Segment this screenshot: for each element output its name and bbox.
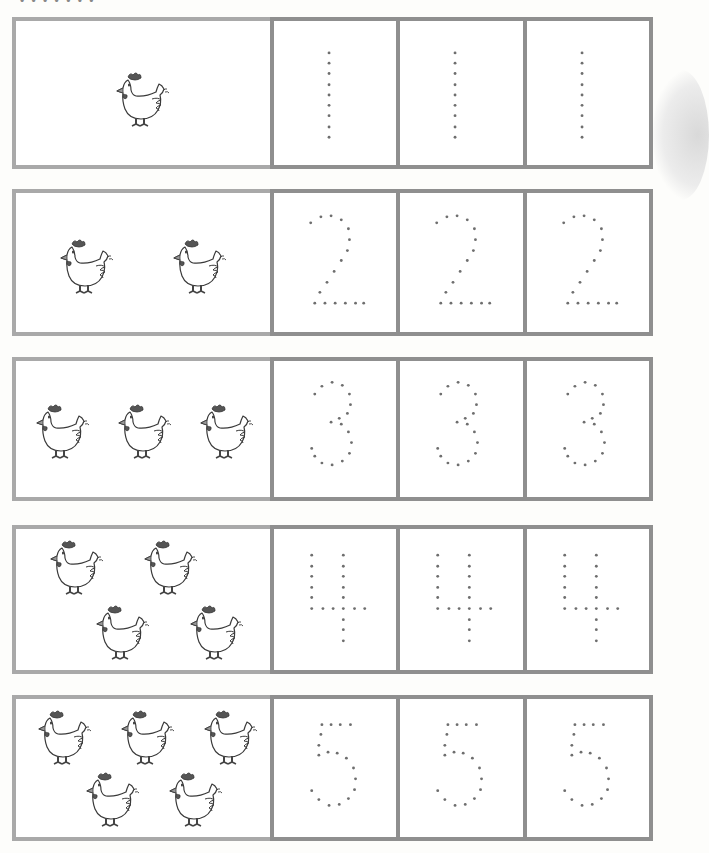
tracing-cells [270,357,653,501]
chicken-icon [171,238,231,296]
chicken-icon [116,403,176,461]
counting-row-3 [12,357,653,501]
dotted-digit-4 [400,529,522,670]
chicken-icon [114,71,174,129]
counting-row-1 [12,17,653,169]
trace-digit-3-cell[interactable] [527,361,649,497]
chicken-icon [48,539,108,597]
trace-digit-3-cell[interactable] [400,361,526,497]
chicken-icon [198,403,258,461]
chicken-icon [142,539,202,597]
chicken-icon [188,604,248,662]
counting-row-5 [12,695,653,841]
dotted-digit-2 [274,193,396,332]
counting-row-2 [12,189,653,336]
chicken-icon [36,709,96,767]
chicken-icon [119,709,179,767]
chicken-icon [167,771,227,829]
chicken-icon [34,403,94,461]
chicken-icon [58,238,118,296]
chicken-picture-cell [12,17,270,169]
dotted-digit-5 [274,699,396,837]
chicken-icon [202,709,262,767]
dotted-digit-2 [400,193,522,332]
chicken-icon [119,709,179,767]
chicken-icon [84,771,144,829]
dotted-digit-3 [400,361,522,497]
chicken-icon [171,238,231,296]
trace-digit-1-cell[interactable] [400,21,526,165]
chicken-icon [202,709,262,767]
dotted-digit-4 [274,529,396,670]
chicken-picture-cell [12,357,270,501]
tracing-cells [270,189,653,336]
chicken-picture-cell [12,189,270,336]
trace-digit-1-cell[interactable] [527,21,649,165]
chicken-picture-cell [12,695,270,841]
dotted-digit-4 [527,529,649,670]
counting-row-4 [12,525,653,674]
trace-digit-2-cell[interactable] [527,193,649,332]
chicken-icon [36,709,96,767]
chicken-icon [34,403,94,461]
trace-digit-3-cell[interactable] [274,361,400,497]
dotted-digit-2 [527,193,649,332]
dotted-digit-3 [527,361,649,497]
chicken-icon [167,771,227,829]
tracing-cells [270,17,653,169]
header-fragment: • • • • • • • [20,0,95,8]
chicken-icon [48,539,108,597]
dotted-digit-1 [274,21,396,165]
trace-digit-4-cell[interactable] [527,529,649,670]
chicken-icon [142,539,202,597]
chicken-icon [94,604,154,662]
chicken-icon [84,771,144,829]
trace-digit-5-cell[interactable] [274,699,400,837]
chicken-icon [198,403,258,461]
chicken-icon [116,403,176,461]
tracing-cells [270,695,653,841]
dotted-digit-5 [527,699,649,837]
page-curl-shadow [653,70,709,200]
trace-digit-4-cell[interactable] [400,529,526,670]
trace-digit-2-cell[interactable] [274,193,400,332]
trace-digit-2-cell[interactable] [400,193,526,332]
chicken-picture-cell [12,525,270,674]
chicken-icon [58,238,118,296]
trace-digit-4-cell[interactable] [274,529,400,670]
dotted-digit-3 [274,361,396,497]
dotted-digit-1 [400,21,522,165]
chicken-icon [188,604,248,662]
chicken-icon [114,71,174,129]
trace-digit-5-cell[interactable] [400,699,526,837]
tracing-cells [270,525,653,674]
dotted-digit-1 [527,21,649,165]
trace-digit-1-cell[interactable] [274,21,400,165]
dotted-digit-5 [400,699,522,837]
trace-digit-5-cell[interactable] [527,699,649,837]
chicken-icon [94,604,154,662]
